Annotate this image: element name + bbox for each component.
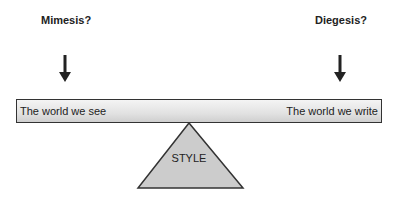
beam-right-text: The world we write (286, 105, 378, 117)
beam-left-text: The world we see (20, 105, 106, 117)
balance-beam: The world we see The world we write (16, 99, 382, 123)
style-label: STYLE (163, 152, 215, 164)
